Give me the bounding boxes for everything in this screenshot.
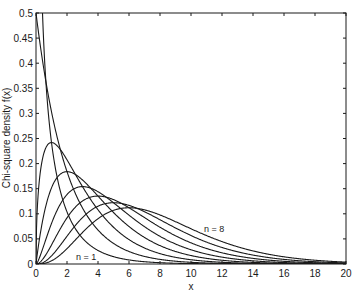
y-tick-label: 0.2 <box>19 158 33 169</box>
x-tick-label: 10 <box>185 268 197 279</box>
x-tick-label: 0 <box>33 268 39 279</box>
chi-square-density-chart: 02468101214161820 00.050.10.150.20.250.3… <box>0 0 356 295</box>
y-tick-label: 0.15 <box>14 183 34 194</box>
x-axis-label: x <box>189 281 194 292</box>
chart-background <box>0 0 356 295</box>
y-tick-label: 0.4 <box>19 58 33 69</box>
y-tick-label: 0.45 <box>14 33 34 44</box>
x-tick-label: 12 <box>216 268 228 279</box>
y-tick-label: 0.3 <box>19 108 33 119</box>
x-tick-label: 8 <box>157 268 163 279</box>
y-axis-label: Chi-square density f(x) <box>1 88 12 189</box>
y-tick-label: 0.35 <box>14 83 34 94</box>
x-tick-label: 6 <box>126 268 132 279</box>
y-tick-label: 0.5 <box>19 8 33 19</box>
x-tick-label: 2 <box>64 268 70 279</box>
x-tick-label: 16 <box>278 268 290 279</box>
y-tick-label: 0 <box>27 259 33 270</box>
x-tick-label: 20 <box>340 268 352 279</box>
y-tick-label: 0.25 <box>14 133 34 144</box>
x-tick-label: 18 <box>309 268 321 279</box>
y-tick-label: 0.1 <box>19 208 33 219</box>
x-tick-label: 14 <box>247 268 259 279</box>
annotation-n8: n = 8 <box>204 224 224 234</box>
y-tick-label: 0.05 <box>14 233 34 244</box>
annotation-n1: n = 1 <box>76 252 96 262</box>
x-tick-label: 4 <box>95 268 101 279</box>
